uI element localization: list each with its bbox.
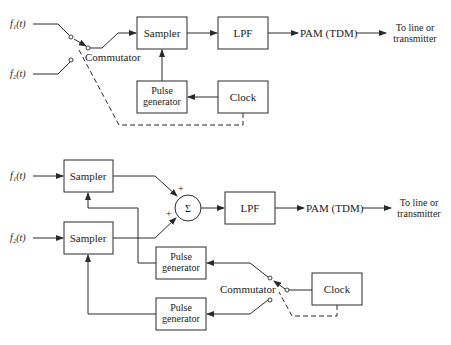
top-commutator-contact-2 [69, 58, 73, 62]
top-pulse-generator-label-1: Pulse [151, 85, 173, 96]
bottom-commutator-contact-2 [268, 298, 272, 302]
bottom-sampler2-to-summer-wire [113, 218, 176, 238]
top-output-label: PAM (TDM) [300, 27, 358, 40]
top-commutator-to-sampler-wire [90, 33, 136, 48]
top-f2-wire [33, 62, 70, 74]
bottom-pulsegen2-to-sampler2-wire [88, 255, 156, 314]
bottom-commutator-pivot [285, 288, 289, 292]
bottom-summer-plus-2: + [166, 208, 172, 219]
bottom-clock-label: Clock [324, 283, 351, 295]
bottom-sampler-1-label: Sampler [70, 170, 107, 182]
bottom-pulse-generator-1-label-1: Pulse [170, 251, 192, 262]
bottom-commutator-label: Commutator [220, 283, 276, 295]
top-f1-wire [33, 24, 70, 36]
bottom-lpf-label: LPF [241, 202, 260, 214]
bottom-input-f1-label: f₁(t) [10, 170, 26, 182]
top-destination-line1: To line or [396, 22, 435, 33]
top-destination-line2: transmitter [393, 33, 437, 44]
bottom-commutator-to-pulsegen2-wire [207, 300, 268, 314]
bottom-destination-line2: transmitter [397, 208, 441, 219]
bottom-commutator-arm [274, 281, 285, 289]
top-commutator-pivot [86, 46, 90, 50]
top-commutator-arm [74, 39, 86, 46]
bottom-pulse-generator-1-label-2: generator [162, 262, 200, 273]
bottom-diagram: f₁(t) f₂(t) Sampler Sampler + + Σ LPF PA… [10, 160, 441, 330]
pam-tdm-diagram: f₁(t) f₂(t) Commutator Sampler LPF PAM (… [0, 0, 451, 345]
bottom-commutator-to-pulsegen1-wire [207, 263, 268, 277]
bottom-pulse-generator-2-label-2: generator [162, 313, 200, 324]
bottom-sampler1-to-summer-wire [113, 176, 177, 196]
bottom-summer-symbol: Σ [185, 203, 191, 214]
top-clock-label: Clock [230, 91, 257, 103]
bottom-output-label: PAM (TDM) [306, 202, 364, 215]
top-diagram: f₁(t) f₂(t) Commutator Sampler LPF PAM (… [10, 17, 437, 125]
top-commutator-contact-1 [69, 35, 73, 39]
top-pulse-generator-label-2: generator [143, 96, 181, 107]
top-input-f2-label: f₂(t) [10, 68, 26, 80]
top-commutator-label: Commutator [85, 51, 141, 63]
bottom-pulse-generator-2-label-1: Pulse [170, 302, 192, 313]
bottom-commutator-contact-1 [268, 276, 272, 280]
bottom-summer-plus-1: + [178, 183, 184, 194]
bottom-sampler-2-label: Sampler [70, 232, 107, 244]
top-lpf-label: LPF [234, 27, 253, 39]
bottom-input-f2-label: f₂(t) [10, 232, 26, 244]
bottom-destination-line1: To line or [400, 197, 439, 208]
top-sampler-label: Sampler [144, 27, 181, 39]
top-input-f1-label: f₁(t) [10, 18, 26, 30]
